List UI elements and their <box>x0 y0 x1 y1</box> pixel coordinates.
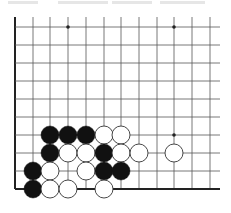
white-stone[interactable] <box>59 180 77 198</box>
white-stone[interactable] <box>95 180 113 198</box>
white-stone[interactable] <box>165 144 183 162</box>
black-stone[interactable] <box>59 126 77 144</box>
black-stone[interactable] <box>95 162 113 180</box>
white-stone[interactable] <box>112 126 130 144</box>
black-stone[interactable] <box>95 144 113 162</box>
go-board[interactable] <box>0 0 231 213</box>
black-stone[interactable] <box>41 126 59 144</box>
black-stone[interactable] <box>41 144 59 162</box>
black-stone[interactable] <box>24 180 42 198</box>
white-stone[interactable] <box>77 162 95 180</box>
white-stone[interactable] <box>95 126 113 144</box>
star-point <box>66 25 70 29</box>
black-stone[interactable] <box>24 162 42 180</box>
white-stone[interactable] <box>130 144 148 162</box>
star-point <box>172 25 176 29</box>
stones-layer[interactable] <box>24 126 183 198</box>
black-stone[interactable] <box>77 126 95 144</box>
white-stone[interactable] <box>77 144 95 162</box>
star-point <box>172 133 176 137</box>
white-stone[interactable] <box>41 162 59 180</box>
white-stone[interactable] <box>59 144 77 162</box>
white-stone[interactable] <box>112 144 130 162</box>
white-stone[interactable] <box>41 180 59 198</box>
black-stone[interactable] <box>112 162 130 180</box>
